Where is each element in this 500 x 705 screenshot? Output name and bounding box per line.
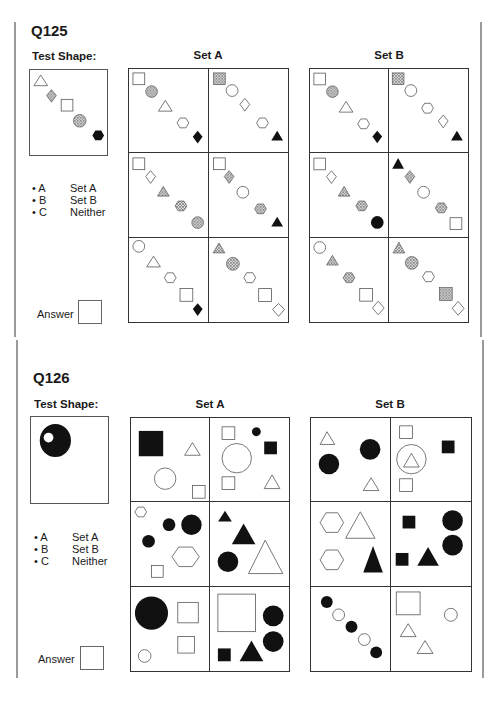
option-c[interactable]: • CNeither: [34, 555, 107, 567]
set-a-cell-6: [210, 587, 289, 671]
set-b-cell-6: [389, 238, 468, 322]
question-title: Q126: [33, 369, 70, 386]
set-b-cell-6: [391, 587, 471, 671]
left-margin-rule: [14, 22, 16, 337]
set-a-cell-5: [131, 587, 210, 671]
square-icon: [61, 99, 73, 111]
set-b-cell-3: [310, 153, 389, 237]
set-b-cell-1: [310, 69, 389, 153]
test-shape-sequence: [30, 70, 107, 155]
diamond-icon: [47, 90, 57, 103]
set-a-label: Set A: [128, 49, 288, 61]
answer-input-box[interactable]: [80, 646, 104, 670]
set-b-label: Set B: [310, 398, 470, 410]
set-b-cell-3: [311, 502, 391, 586]
options-list: • ASet A • BSet B • CNeither: [32, 182, 105, 218]
options-list: • ASet A • BSet B • CNeither: [34, 531, 107, 567]
set-b-grid: [310, 417, 472, 672]
hexagon-icon: [92, 131, 104, 141]
set-a-cell-4: [209, 153, 289, 237]
set-b-cell-4: [391, 502, 471, 586]
left-margin-rule-2: [16, 340, 18, 678]
set-b-cell-4: [389, 153, 468, 237]
option-c[interactable]: • CNeither: [32, 206, 105, 218]
set-a-grid: [128, 68, 289, 323]
set-b-cell-5: [310, 238, 389, 322]
answer-label: Answer: [38, 653, 75, 665]
question-title: Q125: [31, 22, 68, 39]
set-a-cell-2: [210, 418, 289, 502]
right-margin-rule: [480, 22, 482, 337]
triangle-icon: [34, 75, 48, 86]
right-margin-rule-2: [482, 340, 484, 678]
set-a-cell-1: [129, 69, 209, 153]
set-a-cell-3: [131, 502, 210, 586]
set-a-cell-6: [209, 238, 289, 322]
set-a-cell-1: [131, 418, 210, 502]
set-a-cell-2: [209, 69, 289, 153]
test-shape-figure: [31, 417, 108, 503]
white-dot-icon: [44, 433, 54, 443]
set-a-cell-3: [129, 153, 209, 237]
option-b[interactable]: • BSet B: [34, 543, 107, 555]
test-shape-box: [30, 416, 109, 504]
set-b-cell-1: [311, 418, 391, 502]
test-shape-label: Test Shape:: [32, 50, 96, 62]
set-a-label: Set A: [130, 398, 290, 410]
answer-label: Answer: [37, 308, 74, 320]
answer-input-box[interactable]: [78, 300, 102, 324]
black-circle-icon: [40, 424, 71, 457]
test-shape-box: [29, 69, 108, 156]
option-a[interactable]: • ASet A: [34, 531, 107, 543]
set-a-grid: [130, 417, 290, 672]
set-a-cell-4: [210, 502, 289, 586]
set-b-cell-5: [311, 587, 391, 671]
option-a[interactable]: • ASet A: [32, 182, 105, 194]
circle-icon: [73, 114, 86, 127]
test-shape-label: Test Shape:: [34, 398, 98, 410]
set-a-cell-5: [129, 238, 209, 322]
set-b-cell-2: [389, 69, 468, 153]
option-b[interactable]: • BSet B: [32, 194, 105, 206]
set-b-cell-2: [391, 418, 471, 502]
set-b-label: Set B: [309, 49, 469, 61]
set-b-grid: [309, 68, 469, 323]
